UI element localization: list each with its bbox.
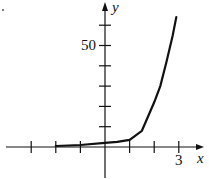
y-axis-arrow-icon [102, 2, 108, 11]
x-axis-label: x [197, 151, 204, 166]
x-tick-label-3: 3 [175, 153, 183, 168]
y-tick-label-50: 50 [81, 38, 96, 53]
corner-dot [2, 9, 4, 11]
data-curve [56, 17, 177, 146]
y-axis-label: y [112, 0, 119, 15]
